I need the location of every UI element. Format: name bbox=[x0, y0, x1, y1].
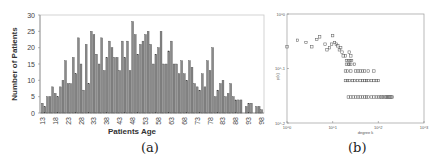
y-tick-label: 5 bbox=[31, 93, 35, 100]
y-tick-label: 10^-2 bbox=[275, 121, 286, 126]
y-tick-label: 15 bbox=[27, 61, 35, 68]
y-tick-label: 10^-1 bbox=[275, 66, 286, 71]
y-tick-label: 20 bbox=[27, 44, 35, 51]
bar bbox=[186, 80, 188, 113]
bar bbox=[54, 93, 56, 113]
bar bbox=[256, 106, 258, 113]
bar bbox=[98, 64, 100, 113]
bar bbox=[96, 54, 98, 113]
bar bbox=[173, 64, 175, 113]
bar bbox=[150, 44, 152, 113]
bar bbox=[147, 31, 149, 113]
bar bbox=[227, 93, 229, 113]
x-tick-label: 28 bbox=[78, 117, 85, 125]
x-tick-label: 13 bbox=[39, 117, 46, 125]
bar bbox=[245, 106, 247, 113]
y-tick-label: 10 bbox=[27, 77, 35, 84]
y-axis-label: p(k) bbox=[275, 72, 280, 80]
bar bbox=[116, 57, 118, 113]
bar bbox=[44, 106, 46, 113]
x-tick-label: 83 bbox=[219, 117, 226, 125]
bar bbox=[155, 54, 157, 113]
x-tick-label: 10^3 bbox=[420, 125, 429, 130]
bar bbox=[114, 57, 116, 113]
bar bbox=[78, 38, 80, 113]
bar bbox=[235, 100, 237, 113]
bar bbox=[214, 97, 216, 113]
bar bbox=[134, 35, 136, 113]
bar bbox=[258, 106, 260, 113]
scatter-chart-degree-distribution: 10^010^110^210^310^-210^-110^0degree kp(… bbox=[270, 0, 437, 140]
bar bbox=[194, 84, 196, 113]
bar-chart-patients-age: 0510152025301318232833384348535863687378… bbox=[0, 0, 275, 140]
x-tick-label: 23 bbox=[65, 117, 72, 125]
bar bbox=[165, 64, 167, 113]
bar bbox=[72, 57, 74, 113]
bar bbox=[158, 48, 160, 113]
bar bbox=[106, 57, 108, 113]
bar bbox=[67, 84, 69, 113]
x-tick-label: 73 bbox=[194, 117, 201, 125]
x-tick-label: 58 bbox=[155, 117, 162, 125]
x-axis-label: degree k bbox=[358, 130, 374, 135]
bar bbox=[238, 100, 240, 113]
bar bbox=[62, 80, 64, 113]
bar bbox=[250, 103, 252, 113]
bar bbox=[222, 80, 224, 113]
bar bbox=[90, 31, 92, 113]
y-tick-label: 25 bbox=[27, 28, 35, 35]
bar bbox=[137, 54, 139, 113]
bar bbox=[142, 41, 144, 113]
bar bbox=[181, 61, 183, 113]
x-tick-label: 10^2 bbox=[374, 125, 383, 130]
bar bbox=[57, 97, 59, 113]
bar bbox=[47, 97, 49, 113]
bar bbox=[88, 84, 90, 113]
bar bbox=[59, 87, 61, 113]
bar bbox=[183, 74, 185, 113]
bar bbox=[261, 110, 263, 113]
bar bbox=[212, 48, 214, 113]
x-tick-label: 88 bbox=[232, 117, 239, 125]
bar bbox=[49, 97, 51, 113]
bar bbox=[152, 64, 154, 113]
y-tick-label: 0 bbox=[31, 110, 35, 117]
bar bbox=[207, 61, 209, 113]
bar bbox=[101, 38, 103, 113]
bar bbox=[103, 71, 105, 113]
y-tick-label: 10^0 bbox=[276, 12, 285, 17]
bar bbox=[124, 57, 126, 113]
bar bbox=[80, 64, 82, 113]
bar bbox=[217, 90, 219, 113]
bar bbox=[119, 71, 121, 113]
chart-b-panel: 10^010^110^210^310^-210^-110^0degree kp(… bbox=[270, 0, 437, 162]
bar bbox=[160, 31, 162, 113]
x-tick-label: 48 bbox=[129, 117, 136, 125]
bar bbox=[219, 84, 221, 113]
bar bbox=[248, 103, 250, 113]
x-tick-label: 10^1 bbox=[328, 125, 337, 130]
x-tick-label: 68 bbox=[181, 117, 188, 125]
x-tick-label: 38 bbox=[103, 117, 110, 125]
bar bbox=[163, 64, 165, 113]
bar bbox=[201, 74, 203, 113]
bar bbox=[191, 67, 193, 113]
x-tick-label: 33 bbox=[90, 117, 97, 125]
bar bbox=[232, 97, 234, 113]
bar bbox=[209, 71, 211, 113]
bar bbox=[111, 48, 113, 113]
x-tick-label: 63 bbox=[168, 117, 175, 125]
chart-a-panel: 0510152025301318232833384348535863687378… bbox=[0, 0, 275, 162]
x-tick-label: 93 bbox=[245, 117, 252, 125]
x-tick-label: 98 bbox=[258, 117, 265, 125]
bar bbox=[230, 84, 232, 113]
bar bbox=[83, 90, 85, 113]
bar bbox=[139, 44, 141, 113]
bar bbox=[41, 103, 43, 113]
y-axis-label: Number of Patients bbox=[10, 27, 19, 101]
bar bbox=[65, 61, 67, 113]
x-tick-label: 10^0 bbox=[283, 125, 292, 130]
x-tick-label: 43 bbox=[116, 117, 123, 125]
bar bbox=[170, 41, 172, 113]
bar bbox=[127, 41, 129, 113]
